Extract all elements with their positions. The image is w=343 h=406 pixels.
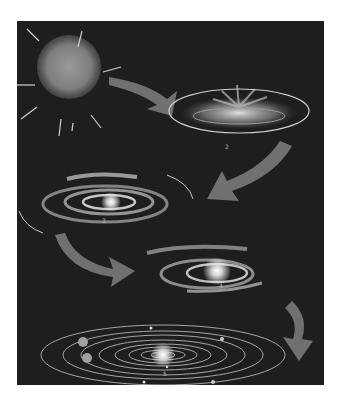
stage-label-3: 3	[102, 218, 106, 224]
diagram-artwork	[17, 21, 324, 385]
stage-label-4: 4	[219, 283, 223, 289]
arrow-3-to-4	[55, 233, 135, 287]
arrow-2-to-3	[207, 141, 292, 201]
arrow-1-to-2	[109, 77, 177, 116]
stage-4-protostar	[147, 247, 262, 292]
arrow-4-to-5	[283, 301, 313, 361]
stage-label-2: 2	[225, 144, 229, 150]
stage-2-disk	[169, 85, 309, 133]
formation-diagram: 2 3 4 5	[17, 21, 324, 385]
stage-label-5: 5	[163, 371, 167, 377]
stage-3-spiral	[19, 174, 193, 233]
stage-1-nebula	[17, 29, 121, 136]
